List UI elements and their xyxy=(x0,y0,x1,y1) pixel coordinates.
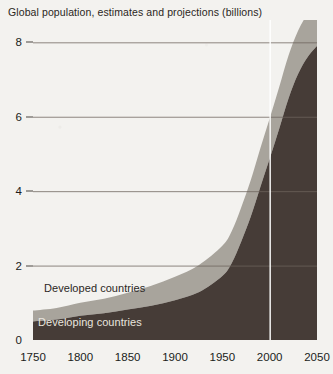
x-tick-label-2050: 2050 xyxy=(304,351,330,363)
chart-title: Global population, estimates and project… xyxy=(8,6,262,18)
x-tick-label-1850: 1850 xyxy=(115,351,141,363)
x-tick-label-1950: 1950 xyxy=(210,351,236,363)
x-tick-label-1750: 1750 xyxy=(20,351,46,363)
series-label-developing: Developing countries xyxy=(38,316,142,328)
x-tick-label-1800: 1800 xyxy=(68,351,94,363)
y-tick-label-8: 8 xyxy=(16,36,22,48)
x-tick-label-1900: 1900 xyxy=(162,351,188,363)
y-tick-label-2: 2 xyxy=(16,260,22,272)
y-tick-label-6: 6 xyxy=(16,111,22,123)
x-axis: 1750180018501900195020002050 xyxy=(0,340,333,374)
series-label-developed: Developed countries xyxy=(44,282,145,294)
y-tick-label-4: 4 xyxy=(16,185,22,197)
y-tick-mark-6 xyxy=(26,116,33,117)
y-tick-mark-4 xyxy=(26,191,33,192)
y-tick-mark-2 xyxy=(26,265,33,266)
y-tick-mark-8 xyxy=(26,42,33,43)
y-axis: 02468 xyxy=(0,20,33,340)
x-tick-label-2000: 2000 xyxy=(257,351,283,363)
population-area-chart: Global population, estimates and project… xyxy=(0,0,333,374)
